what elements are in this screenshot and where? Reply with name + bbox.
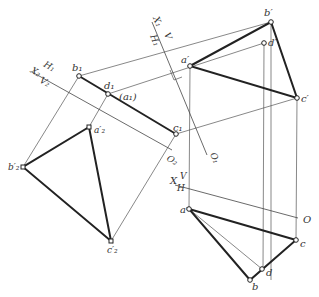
label-origin-o: O bbox=[303, 214, 311, 225]
projector-b-b1 bbox=[79, 22, 271, 76]
projector-b1-b2 bbox=[23, 76, 79, 167]
label-axis-v-x1: V bbox=[162, 31, 174, 42]
label-c-prime: c′ bbox=[301, 93, 310, 104]
projector-d-d1 bbox=[108, 43, 264, 94]
line-ad bbox=[189, 209, 262, 269]
point-c-prime bbox=[295, 96, 300, 101]
point-a2-prime bbox=[87, 125, 91, 129]
point-d-prime bbox=[262, 41, 267, 46]
label-c1: c₁ bbox=[173, 122, 183, 133]
point-b1 bbox=[77, 74, 82, 79]
axis-x2 bbox=[32, 72, 172, 150]
projector-c-c1 bbox=[176, 98, 297, 134]
projector-d bbox=[263, 43, 264, 269]
label-d: d bbox=[266, 267, 272, 278]
point-d bbox=[260, 267, 265, 272]
label-axis-v2: V₂ bbox=[38, 75, 52, 89]
label-b1: b₁ bbox=[72, 62, 82, 73]
point-b-prime bbox=[269, 20, 274, 25]
label-b-prime: b′ bbox=[264, 7, 273, 18]
point-c2-prime bbox=[109, 239, 113, 243]
label-d1: d₁ bbox=[104, 80, 114, 91]
label-c: c bbox=[300, 238, 306, 249]
label-a2-prime: a′₂ bbox=[94, 125, 105, 135]
projector-c1-c2 bbox=[111, 134, 176, 241]
point-a bbox=[187, 207, 192, 212]
projector-a bbox=[189, 66, 190, 209]
triangle-front-view bbox=[190, 22, 297, 98]
label-axis-h1: H₁ bbox=[148, 32, 162, 47]
label-b2-prime: b′₂ bbox=[8, 162, 20, 172]
triangle-true-shape bbox=[23, 127, 111, 241]
triangle-top-view bbox=[189, 209, 296, 280]
projector-c bbox=[296, 98, 297, 240]
point-c bbox=[294, 238, 299, 243]
point-d1 bbox=[106, 92, 111, 97]
label-b: b bbox=[252, 281, 258, 292]
label-axis-v: V bbox=[180, 171, 188, 181]
label-axis-h: H bbox=[176, 183, 185, 193]
label-c2-prime: c′₂ bbox=[107, 245, 118, 255]
label-d-prime: d′ bbox=[268, 37, 277, 48]
label-a1: (a₁) bbox=[119, 91, 137, 102]
label-origin-o2: O₂ bbox=[165, 153, 180, 167]
label-a-prime: a′ bbox=[181, 54, 190, 65]
label-a: a bbox=[180, 204, 186, 215]
projector-d1-a2 bbox=[89, 94, 108, 127]
label-origin-o1: O₁ bbox=[208, 151, 221, 165]
label-axis-x1: X₁ bbox=[151, 14, 164, 28]
point-b2-prime bbox=[21, 165, 25, 169]
label-axis-h1-x2: H₁ bbox=[41, 59, 57, 74]
projection-diagram: b′ d′ a′ c′ b₁ d₁ (a₁) c₁ a′₂ b′₂ c′₂ a … bbox=[0, 0, 319, 297]
